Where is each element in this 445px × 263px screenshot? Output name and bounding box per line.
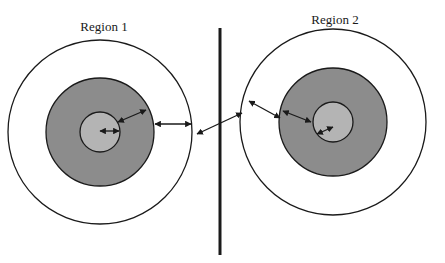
region-2-inner-circle [313,102,353,142]
region-2-label: Region 2 [311,12,358,27]
region-1: Region 1 [8,19,192,224]
region-1-inner-circle [80,112,120,152]
diagram-canvas: Region 1 Region 2 [0,0,445,263]
region-1-label: Region 1 [80,19,127,34]
region-2: Region 2 [240,12,426,215]
